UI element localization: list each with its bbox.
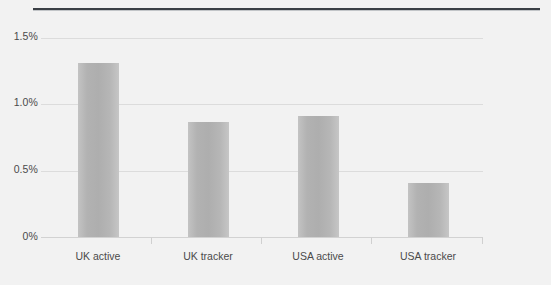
plot-area [41, 38, 483, 237]
x-tick-label-uk-active: UK active [43, 250, 153, 263]
top-divider-rule-shadow [33, 10, 540, 11]
bar-usa-tracker [408, 183, 449, 237]
x-tick-label-usa-active: USA active [263, 250, 373, 263]
bar-usa-active [298, 116, 339, 237]
y-tick-label-1: 1.5% [0, 30, 38, 42]
gridline-1-5 [41, 38, 483, 39]
x-tick-label-usa-tracker: USA tracker [373, 250, 483, 263]
bar-chart-figure: 1.5% 1.0% 0.5% 0% UK active UK tracker U… [0, 0, 551, 285]
y-axis-tick-labels: 1.5% 1.0% 0.5% 0% [0, 0, 38, 285]
x-tick-label-uk-tracker: UK tracker [153, 250, 263, 263]
y-tick-label-2: 1.0% [0, 96, 38, 108]
y-tick-label-4: 0% [0, 230, 38, 242]
x-axis-line [41, 237, 483, 238]
x-axis-separator-1 [151, 237, 152, 244]
x-axis-separator-4 [482, 237, 483, 244]
x-axis-separator-2 [261, 237, 262, 244]
bar-uk-active [78, 63, 119, 237]
bar-uk-tracker [188, 122, 229, 237]
x-axis-separator-3 [371, 237, 372, 244]
y-tick-label-3: 0.5% [0, 163, 38, 175]
